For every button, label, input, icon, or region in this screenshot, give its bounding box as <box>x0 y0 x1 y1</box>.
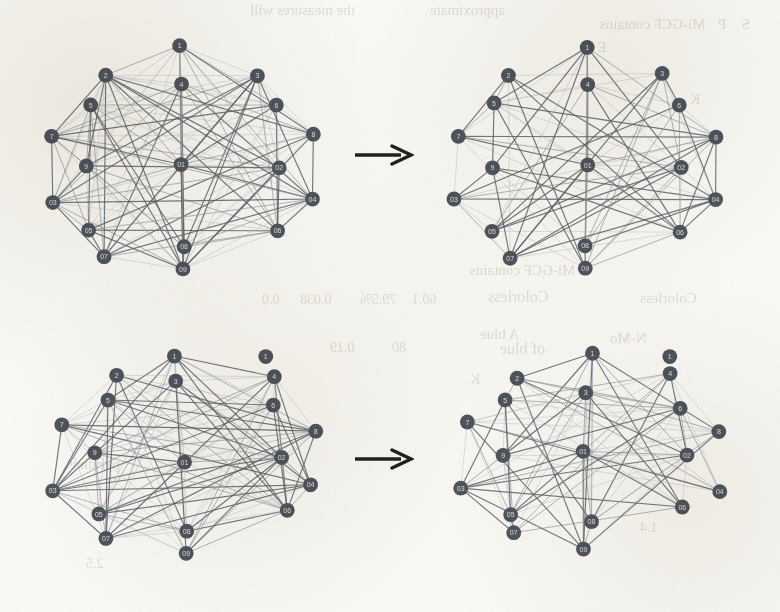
graph-node[interactable]: 07 <box>97 249 112 264</box>
graph-node[interactable]: 03 <box>447 192 462 207</box>
graph-node[interactable]: 08 <box>584 514 599 529</box>
graph-edge <box>461 422 468 488</box>
graph-node[interactable]: 08 <box>179 524 194 539</box>
node-label: 2 <box>506 72 510 79</box>
graph-node-isolated[interactable]: 1 <box>258 349 273 364</box>
graph-node[interactable]: 6 <box>269 98 284 113</box>
node-label: 1 <box>172 353 176 360</box>
graph-node[interactable]: 09 <box>576 542 591 557</box>
node-label: 02 <box>278 454 286 461</box>
graph-node[interactable]: 06 <box>673 225 688 240</box>
graph-node[interactable]: 04 <box>305 192 320 207</box>
graph-node[interactable]: 06 <box>675 500 690 515</box>
graph-node[interactable]: 4 <box>663 366 678 381</box>
graph-node[interactable]: 08 <box>578 238 593 253</box>
graph-node[interactable]: 09 <box>578 261 593 276</box>
graph-node[interactable]: 9 <box>87 445 102 460</box>
graph-node[interactable]: 9 <box>496 448 511 463</box>
node-label: 4 <box>586 81 590 88</box>
graph-node[interactable]: 5 <box>487 96 502 111</box>
graph-node[interactable]: 02 <box>274 450 289 465</box>
graph-node[interactable]: 03 <box>45 195 60 210</box>
graph-node[interactable]: 05 <box>485 224 500 239</box>
graph-node[interactable]: 6 <box>672 98 687 113</box>
arrow-bottom <box>352 442 414 476</box>
graph-node[interactable]: 03 <box>45 483 60 498</box>
graph-node[interactable]: 04 <box>708 192 723 207</box>
node-label: 09 <box>580 546 588 553</box>
graph-node[interactable]: 02 <box>272 160 287 175</box>
graph-node[interactable]: 4 <box>580 77 595 92</box>
graph-node[interactable]: 7 <box>460 415 475 430</box>
graph-node[interactable]: 5 <box>83 98 98 113</box>
graph-node[interactable]: 02 <box>680 448 695 463</box>
graph-node[interactable]: 4 <box>174 77 189 92</box>
graph-node[interactable]: 1 <box>172 38 187 53</box>
graph-node[interactable]: 3 <box>168 374 183 389</box>
graph-node[interactable]: 08 <box>177 239 192 254</box>
graph-node[interactable]: 05 <box>81 223 96 238</box>
graph-node[interactable]: 9 <box>485 160 500 175</box>
graph-node[interactable]: 01 <box>177 455 192 470</box>
graph-node[interactable]: 07 <box>99 531 114 546</box>
node-label: 5 <box>492 100 496 107</box>
graph-node[interactable]: 01 <box>576 444 591 459</box>
graph-node[interactable]: 01 <box>174 157 189 172</box>
graph-node[interactable]: 02 <box>674 160 689 175</box>
graph-node[interactable]: 01 <box>580 158 595 173</box>
graph-node[interactable]: 6 <box>266 398 281 413</box>
graph-node[interactable]: 5 <box>101 393 116 408</box>
graph-node[interactable]: 2 <box>109 368 124 383</box>
node-label: 03 <box>450 196 458 203</box>
graph-edge <box>180 46 313 199</box>
node-label: 9 <box>491 164 495 171</box>
graph-edge <box>458 136 585 268</box>
graph-node[interactable]: 5 <box>498 393 513 408</box>
graph-node[interactable]: 4 <box>267 369 282 384</box>
node-label: 2 <box>115 372 119 379</box>
graph-node[interactable]: 1 <box>167 349 182 364</box>
graph-node[interactable]: 6 <box>673 401 688 416</box>
graph-node[interactable]: 7 <box>44 129 59 144</box>
graph-node[interactable]: 1 <box>580 40 595 55</box>
graph-node[interactable]: 06 <box>280 503 295 518</box>
node-label: 2 <box>104 72 108 79</box>
graph-node[interactable]: 09 <box>179 546 194 561</box>
graph-edge <box>588 165 716 200</box>
graph-node[interactable]: 2 <box>501 68 516 83</box>
graph-node[interactable]: 04 <box>303 477 318 492</box>
graph-node[interactable]: 8 <box>306 127 321 142</box>
graph-node[interactable]: 04 <box>712 484 727 499</box>
node-label: 03 <box>49 199 57 206</box>
graph-node[interactable]: 7 <box>451 129 466 144</box>
graph-node[interactable]: 9 <box>79 159 94 174</box>
graph-node[interactable]: 03 <box>453 481 468 496</box>
bleed-through-text: the measures will <box>250 2 355 19</box>
graph-node[interactable]: 8 <box>308 424 323 439</box>
node-label: 03 <box>457 485 465 492</box>
graph-node[interactable]: 06 <box>270 223 285 238</box>
graph-node[interactable]: 2 <box>510 371 525 386</box>
graph-node[interactable]: 05 <box>503 507 518 522</box>
graph-edge <box>458 75 508 136</box>
graph-node[interactable]: 09 <box>176 262 191 277</box>
graph-edge <box>95 453 106 539</box>
graph-edge <box>583 432 718 549</box>
graph-node[interactable]: 07 <box>503 251 518 266</box>
graph-edge <box>508 73 662 75</box>
graph-node[interactable]: 8 <box>711 424 726 439</box>
graph-node[interactable]: 05 <box>91 507 106 522</box>
node-label: 09 <box>182 550 190 557</box>
graph-node[interactable]: 7 <box>54 417 69 432</box>
graph-node-isolated[interactable]: 1 <box>662 349 677 364</box>
graph-node[interactable]: 3 <box>655 66 670 81</box>
graph-node[interactable]: 1 <box>585 346 600 361</box>
graph-node[interactable]: 2 <box>98 68 113 83</box>
graph-node[interactable]: 8 <box>709 130 724 145</box>
node-label: 7 <box>60 421 64 428</box>
graph-node[interactable]: 3 <box>250 68 265 83</box>
graph-node[interactable]: 3 <box>578 385 593 400</box>
node-label: 02 <box>677 164 685 171</box>
graph-node[interactable]: 07 <box>506 525 521 540</box>
node-label: 7 <box>50 133 54 140</box>
